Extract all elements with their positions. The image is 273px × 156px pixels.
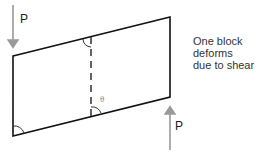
load-label-bottom: P [175,119,183,133]
caption-line-3: due to shear [193,59,254,71]
diagram-graphic [0,0,273,156]
caption-line-1: One block [193,35,254,47]
angle-label: θ [100,94,104,104]
angle-arc-bottom [91,107,101,113]
caption: One block deforms due to shear [193,35,254,71]
angle-arc-top [83,39,91,47]
shear-deformation-diagram: P P θ One block deforms due to shear [0,0,273,156]
load-label-top: P [20,12,28,26]
caption-line-2: deforms [193,47,254,59]
angle-arc-corner [13,126,24,133]
